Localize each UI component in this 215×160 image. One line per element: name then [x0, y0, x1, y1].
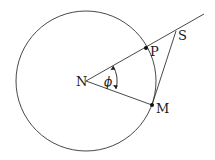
arrowhead-bottom-icon: [113, 85, 118, 89]
segment-m-s: [152, 31, 176, 105]
point-m: [150, 103, 154, 107]
label-n: N: [76, 74, 87, 89]
label-p: P: [150, 44, 159, 59]
point-p: [144, 46, 148, 50]
label-m: M: [156, 101, 169, 116]
label-s: S: [178, 28, 187, 43]
geometry-diagram: N P M S ϕ: [0, 0, 215, 160]
segment-n-m: [86, 81, 152, 105]
label-phi: ϕ: [104, 75, 112, 89]
